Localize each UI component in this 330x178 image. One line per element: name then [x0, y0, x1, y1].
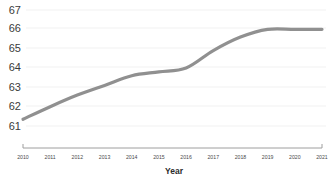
x-tick-label-2017: 2017: [207, 154, 219, 160]
x-axis-tick-labels: 2010201120122013201420152016201720182019…: [17, 154, 328, 160]
x-axis-title: Year: [165, 166, 184, 176]
x-tick-label-2012: 2012: [72, 154, 84, 160]
x-tick-label-2013: 2013: [99, 154, 111, 160]
x-tick-label-2015: 2015: [153, 154, 165, 160]
x-tick-label-2018: 2018: [235, 154, 247, 160]
y-tick-label-67: 67: [9, 4, 21, 16]
y-tick-label-66: 66: [9, 22, 21, 34]
x-axis: [23, 144, 322, 148]
x-tick-label-2014: 2014: [126, 154, 138, 160]
y-tick-label-64: 64: [9, 61, 21, 73]
y-tick-label-62: 62: [9, 100, 21, 112]
chart-plot-area: 67 66 65 64 63 62 61 2010201120122013201…: [0, 0, 330, 178]
y-tick-label-65: 65: [9, 42, 21, 54]
x-tick-label-2016: 2016: [180, 154, 192, 160]
x-tick-label-2021: 2021: [316, 154, 328, 160]
x-tick-label-2019: 2019: [262, 154, 274, 160]
y-axis-tick-labels: 67 66 65 64 63 62 61: [9, 4, 21, 132]
y-tick-label-63: 63: [9, 81, 21, 93]
line-chart: 67 66 65 64 63 62 61 2010201120122013201…: [0, 0, 330, 178]
x-tick-label-2010: 2010: [17, 154, 29, 160]
y-tick-label-61: 61: [9, 120, 21, 132]
x-tick-label-2011: 2011: [45, 154, 56, 160]
x-tick-label-2020: 2020: [289, 154, 301, 160]
